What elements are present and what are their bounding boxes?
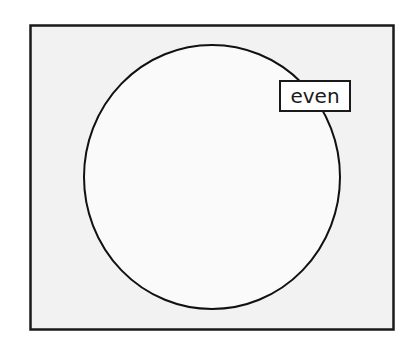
set-label: even — [279, 80, 351, 112]
venn-diagram — [0, 0, 413, 351]
